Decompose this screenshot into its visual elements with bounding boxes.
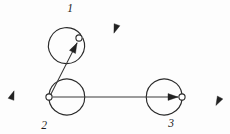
node-label-2: 2 — [41, 119, 47, 131]
self-loop-arrowhead-node-2 — [8, 91, 14, 101]
self-loop-node-1 — [49, 28, 85, 64]
self-loop-arrowhead-node-1 — [114, 24, 120, 34]
node-dot-group — [46, 35, 185, 100]
node-dot-2[interactable] — [46, 94, 52, 100]
node-dot-3[interactable] — [179, 94, 185, 100]
edge-arrowhead-2-to-3 — [168, 94, 178, 101]
self-loop-arrowhead-group — [8, 24, 223, 106]
edge-group — [51, 43, 178, 100]
node-label-3: 3 — [167, 117, 174, 129]
self-loop-arrowhead-node-3 — [216, 96, 223, 105]
node-label-1: 1 — [67, 2, 73, 14]
node-dot-1[interactable] — [76, 35, 82, 41]
edge-arrowhead-2-to-1 — [69, 43, 77, 53]
graph-svg: 1 2 3 — [0, 0, 230, 134]
diagram-canvas: 1 2 3 — [0, 0, 230, 134]
self-loop-group — [49, 28, 183, 115]
